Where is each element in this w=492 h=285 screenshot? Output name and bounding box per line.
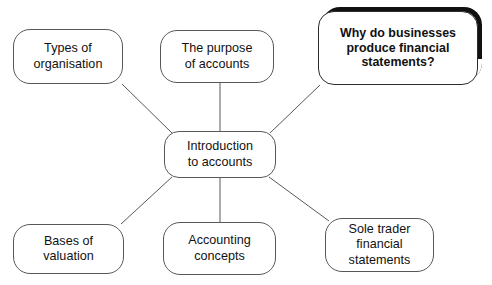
node-types-of-organisation[interactable]: Types of organisation: [13, 29, 123, 84]
mind-map-diagram: Types of organisation The purpose of acc…: [0, 0, 492, 285]
connector-sole-trader: [269, 177, 329, 221]
node-label-introduction-to-accounts: Introduction to accounts: [165, 139, 275, 169]
node-sole-trader-financial-statements[interactable]: Sole trader financial statements: [325, 218, 434, 272]
node-introduction-to-accounts[interactable]: Introduction to accounts: [164, 131, 276, 178]
node-label-accounting-concepts: Accounting concepts: [164, 233, 275, 263]
connector-bases-of-valuation: [121, 177, 172, 224]
node-label-why-do-businesses-produce-financial-statements: Why do businesses produce financial stat…: [319, 26, 477, 70]
connector-types-of-organisation: [122, 84, 172, 133]
node-label-the-purpose-of-accounts: The purpose of accounts: [161, 41, 273, 71]
node-why-do-businesses-produce-financial-statements[interactable]: Why do businesses produce financial stat…: [318, 11, 478, 85]
node-label-types-of-organisation: Types of organisation: [14, 41, 122, 71]
connector-why-do-businesses: [270, 85, 320, 133]
node-bases-of-valuation[interactable]: Bases of valuation: [13, 224, 124, 274]
node-accounting-concepts[interactable]: Accounting concepts: [163, 222, 276, 275]
node-label-sole-trader-financial-statements: Sole trader financial statements: [326, 222, 433, 268]
node-label-bases-of-valuation: Bases of valuation: [14, 234, 123, 264]
node-the-purpose-of-accounts[interactable]: The purpose of accounts: [160, 30, 274, 83]
